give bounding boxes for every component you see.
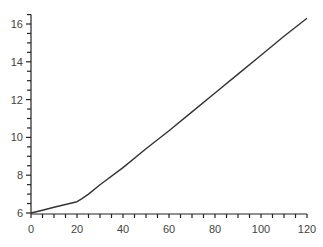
x-tick-label: 0 (28, 223, 34, 235)
line-chart: 6810121416 020406080100120 (0, 0, 323, 247)
x-tick-label: 20 (71, 223, 83, 235)
x-tick-label: 60 (163, 223, 175, 235)
y-axis: 6810121416 (11, 15, 31, 219)
y-tick-label: 12 (11, 94, 23, 106)
y-tick-label: 14 (11, 56, 23, 68)
x-tick-label: 100 (252, 223, 270, 235)
y-tick-label: 6 (17, 207, 23, 219)
y-tick-label: 8 (17, 169, 23, 181)
data-line (31, 18, 307, 213)
x-tick-label: 80 (209, 223, 221, 235)
y-tick-label: 10 (11, 131, 23, 143)
x-axis: 020406080100120 (28, 214, 316, 235)
x-tick-label: 120 (298, 223, 316, 235)
x-tick-label: 40 (117, 223, 129, 235)
y-tick-label: 16 (11, 18, 23, 30)
plot-area (31, 18, 307, 213)
